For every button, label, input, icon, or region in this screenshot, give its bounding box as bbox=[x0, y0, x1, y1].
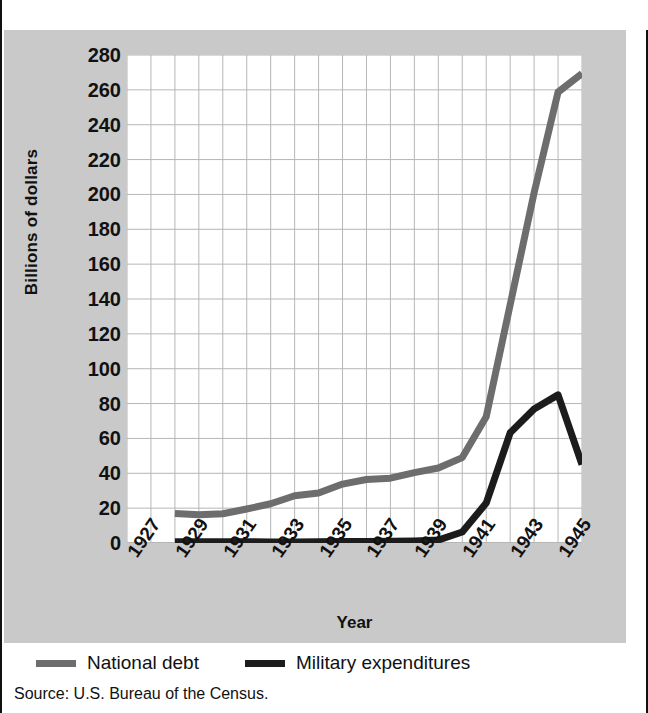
y-axis-tick-label: 240 bbox=[55, 115, 121, 135]
legend-label: Military expenditures bbox=[296, 652, 470, 674]
y-axis-tick-label: 220 bbox=[55, 150, 121, 170]
line-swatch-icon bbox=[36, 660, 76, 667]
source-note: Source: U.S. Bureau of the Census. bbox=[14, 685, 268, 703]
legend-entry[interactable]: Military expenditures bbox=[245, 652, 470, 674]
plot-area bbox=[127, 55, 582, 543]
y-axis-tick-label: 120 bbox=[55, 324, 121, 344]
line-swatch-icon bbox=[245, 660, 285, 667]
source-row: Source: U.S. Bureau of the Census. bbox=[4, 683, 626, 711]
series-line bbox=[175, 395, 582, 542]
series-line bbox=[175, 73, 582, 514]
y-axis-tick-label: 200 bbox=[55, 184, 121, 204]
y-axis-tick-label: 280 bbox=[55, 45, 121, 65]
y-axis-tick-label: 160 bbox=[55, 254, 121, 274]
y-axis-tick-label: 60 bbox=[55, 428, 121, 448]
title-strip: Public Debt and Military Spending bbox=[2, 0, 648, 30]
y-axis-tick-label: 80 bbox=[55, 394, 121, 414]
y-axis-tick-label: 180 bbox=[55, 219, 121, 239]
data-layer bbox=[127, 55, 582, 543]
legend-label: National debt bbox=[87, 652, 199, 674]
y-axis-tick-label: 140 bbox=[55, 289, 121, 309]
y-axis-tick-label: 100 bbox=[55, 359, 121, 379]
y-axis-tick-label: 20 bbox=[55, 498, 121, 518]
y-axis-title: Billions of dollars bbox=[22, 149, 42, 295]
legend-entry[interactable]: National debt bbox=[36, 652, 199, 674]
y-axis-tick-label: 0 bbox=[55, 533, 121, 553]
chart-legend: National debtMilitary expenditures bbox=[4, 643, 626, 683]
x-axis-tick-labels: 1927192919311933193519371939194119431945 bbox=[127, 545, 582, 615]
y-axis-title-wrapper: Billions of dollars bbox=[20, 102, 44, 342]
y-axis-tick-label: 40 bbox=[55, 463, 121, 483]
y-axis-tick-label: 260 bbox=[55, 80, 121, 100]
chart-panel: 280260240220200180160140120100806040200 … bbox=[4, 30, 626, 643]
x-axis-title: Year bbox=[127, 613, 582, 633]
y-axis-tick-labels: 280260240220200180160140120100806040200 bbox=[49, 55, 121, 543]
figure-container: Public Debt and Military Spending 280260… bbox=[0, 0, 648, 713]
